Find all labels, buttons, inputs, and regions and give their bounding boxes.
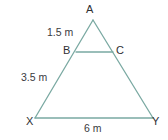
- vertex-label-a: A: [86, 4, 93, 15]
- vertex-label-y: Y: [152, 116, 159, 127]
- geometry-diagram: A B C X Y 1.5 m 3.5 m 6 m: [0, 0, 168, 140]
- vertex-label-x: X: [26, 116, 33, 127]
- measure-label-xy: 6 m: [84, 123, 102, 134]
- vertex-label-b: B: [63, 45, 70, 56]
- measure-label-ab: 1.5 m: [47, 27, 73, 38]
- measure-label-bx: 3.5 m: [21, 72, 47, 83]
- vertex-label-c: C: [116, 45, 124, 56]
- side-ay-line: [93, 20, 153, 118]
